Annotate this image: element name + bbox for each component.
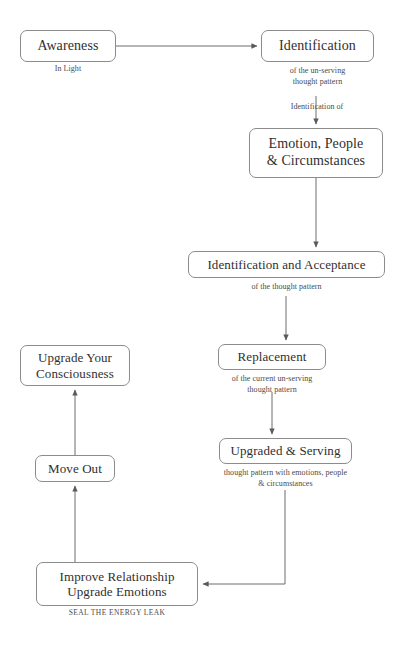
caption-improve-relationship-upgrade-emotions: SEAL THE ENERGY LEAK xyxy=(36,608,198,618)
node-upgraded-and-serving[interactable]: Upgraded & Serving xyxy=(219,438,352,464)
node-identification[interactable]: Identification xyxy=(261,30,374,62)
caption-replacement: of the current un-serving thought patter… xyxy=(180,374,364,396)
node-upgrade-your-consciousness[interactable]: Upgrade Your Consciousness xyxy=(20,345,130,386)
node-awareness[interactable]: Awareness xyxy=(20,30,116,62)
node-improve-relationship-upgrade-emotions[interactable]: Improve Relationship Upgrade Emotions xyxy=(36,562,198,606)
node-label-awareness: Awareness xyxy=(37,38,98,55)
edge-label-identification-to-emotion: Identification of xyxy=(262,102,372,113)
caption-identification: of the un-serving thought pattern xyxy=(261,66,374,88)
node-replacement[interactable]: Replacement xyxy=(218,344,326,370)
node-label-identification-and-acceptance: Identification and Acceptance xyxy=(207,257,365,272)
node-label-move-out: Move Out xyxy=(48,461,102,476)
caption-awareness: In Light xyxy=(20,64,116,75)
node-label-identification: Identification xyxy=(279,38,356,55)
node-label-upgrade-your-consciousness: Upgrade Your Consciousness xyxy=(36,350,114,381)
flowchart-canvas: AwarenessIdentificationEmotion, People &… xyxy=(0,0,399,645)
edge-layer xyxy=(0,0,399,645)
node-move-out[interactable]: Move Out xyxy=(35,455,115,482)
node-label-replacement: Replacement xyxy=(238,349,307,364)
caption-upgraded-and-serving: thought pattern with emotions, people & … xyxy=(180,468,391,490)
node-label-upgraded-and-serving: Upgraded & Serving xyxy=(230,443,340,458)
edge-upgraded-to-improve xyxy=(203,490,285,584)
node-emotion-people-circumstances[interactable]: Emotion, People & Circumstances xyxy=(249,128,383,178)
node-label-improve-relationship-upgrade-emotions: Improve Relationship Upgrade Emotions xyxy=(59,569,174,600)
caption-identification-and-acceptance: of the thought pattern xyxy=(188,282,385,293)
node-identification-and-acceptance[interactable]: Identification and Acceptance xyxy=(188,251,385,278)
node-label-emotion-people-circumstances: Emotion, People & Circumstances xyxy=(267,136,365,169)
